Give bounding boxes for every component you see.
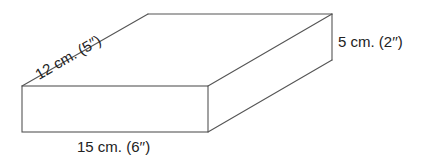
width-label: 15 cm. (6′′) [77,138,150,155]
height-label: 5 cm. (2′′) [338,33,403,50]
top-right-edge [208,14,332,86]
front-face [22,86,208,132]
depth-label: 12 cm. (5′′) [32,31,104,82]
box-diagram: 12 cm. (5′′) 5 cm. (2′′) 15 cm. (6′′) [0,0,428,158]
box-drawing: 12 cm. (5′′) 5 cm. (2′′) 15 cm. (6′′) [0,0,428,158]
right-bottom-edge [208,60,332,132]
